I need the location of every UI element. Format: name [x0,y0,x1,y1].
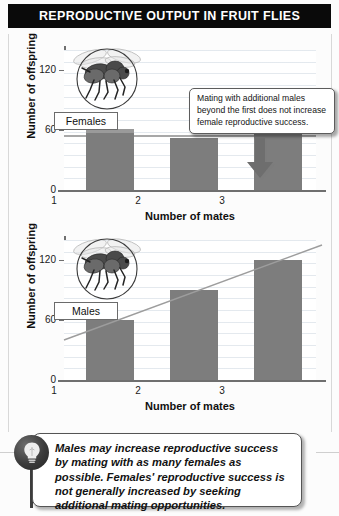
y-tick-label-120-males: 120 [24,254,56,265]
y-tick-label-60-females: 60 [24,124,56,135]
x-tick-label-3-females: 3 [202,195,242,206]
x-axis-label-females: Number of mates [64,210,316,222]
figure-title-bar: REPRODUCTIVE OUTPUT IN FRUIT FLIES [8,4,331,28]
mating-flies-illustration-females [70,42,144,116]
lightbulb-icon [14,435,49,470]
x-tick-label-1-females: 1 [34,195,74,206]
x-axis-label-males: Number of mates [64,400,316,412]
lightbulb-glyph [22,441,42,465]
bar-females-2 [170,138,218,190]
conclusion-text: Males may increase reproductive success … [55,441,292,513]
mating-flies-illustration-males [70,232,144,306]
conclusion-box: Males may increase reproductive success … [32,433,302,507]
bar-males-1 [86,320,134,380]
bar-females-1 [86,133,134,190]
y-tick-label-120-females: 120 [24,64,56,75]
y-tick-label-0-females: 0 [24,184,56,195]
callout-arrow-females [244,136,274,180]
callout-females: Mating with additional males beyond the … [189,88,335,134]
x-tick-label-2-males: 2 [118,385,158,396]
x-axis-males [58,380,326,382]
sex-label-males: Males [54,302,118,320]
bar-males-2 [170,290,218,380]
y-tick-label-0-males: 0 [24,374,56,385]
chart-females: Number of offspring 0 60 120 1 2 [8,38,331,228]
x-tick-label-1-males: 1 [34,385,74,396]
sex-label-females: Females [54,112,118,130]
chart-males: Number of offspring 0 60 120 1 2 3 [8,228,331,418]
bar-cap-females-1 [86,129,134,133]
x-tick-label-3-males: 3 [202,385,242,396]
figure-page: REPRODUCTIVE OUTPUT IN FRUIT FLIES Numbe… [0,0,339,516]
x-tick-label-2-females: 2 [118,195,158,206]
page-title: REPRODUCTIVE OUTPUT IN FRUIT FLIES [39,9,300,23]
page-rule-bottom-right [316,452,339,453]
fruit-fly-icon [70,42,144,116]
y-tick-label-60-males: 60 [24,314,56,325]
x-axis-females [58,190,326,192]
bar-males-3 [254,260,302,380]
fruit-fly-icon [70,232,144,306]
